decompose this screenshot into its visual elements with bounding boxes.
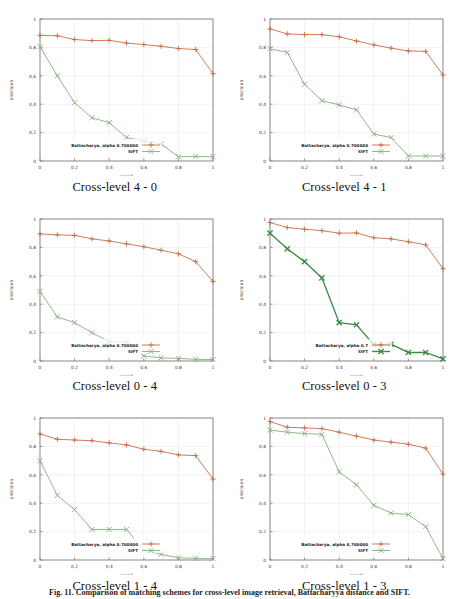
svg-text:0,2: 0,2 [259,130,266,135]
svg-text:0,6: 0,6 [259,74,266,79]
legend-label: SIFT [357,149,367,154]
svg-text:0,2: 0,2 [259,330,266,335]
legend-label: SIFT [128,349,138,354]
svg-text:0: 0 [33,159,36,164]
x-axis-label: recall [120,374,133,376]
series-line-1 [37,33,215,77]
svg-text:1: 1 [212,365,215,370]
svg-text:0,8: 0,8 [29,245,36,250]
svg-text:0,6: 0,6 [370,564,377,569]
svg-text:0: 0 [39,564,42,569]
svg-text:1: 1 [441,564,444,569]
svg-text:0: 0 [39,365,42,370]
svg-text:0,8: 0,8 [175,165,182,170]
svg-text:0: 0 [268,564,271,569]
svg-text:0,6: 0,6 [140,165,147,170]
svg-text:0,2: 0,2 [71,365,78,370]
svg-text:0,4: 0,4 [259,301,266,306]
y-axis-label: precision [9,479,14,500]
svg-text:0: 0 [263,358,266,363]
legend-label: Battacharya, alpha 0.700000 [301,143,368,148]
series-line-1 [267,419,445,477]
svg-text:0,4: 0,4 [29,501,36,506]
svg-text:0,2: 0,2 [71,165,78,170]
subplot-caption: Cross-level 0 - 3 [230,379,459,394]
subplot-cell: 00,20,40,60,8100,20,40,60,81recallprecis… [230,0,459,200]
subplot-row: 00,20,40,60,8100,20,40,60,81recallprecis… [0,399,459,599]
svg-text:0,2: 0,2 [301,365,308,370]
legend-label: SIFT [357,548,367,553]
svg-text:0: 0 [263,558,266,563]
plot-panel: 00,20,40,60,8100,20,40,60,81recallprecis… [230,200,459,376]
svg-text:0,2: 0,2 [29,330,36,335]
svg-text:0,8: 0,8 [259,45,266,50]
svg-text:0,2: 0,2 [29,529,36,534]
svg-text:0,4: 0,4 [259,102,266,107]
plot-panel: 00,20,40,60,8100,20,40,60,81recallprecis… [230,399,459,575]
svg-text:0,6: 0,6 [29,273,36,278]
subplot-cell: 00,20,40,60,8100,20,40,60,81recallprecis… [0,200,230,400]
plot-panel: 00,20,40,60,8100,20,40,60,81recallprecis… [230,0,459,176]
svg-text:1: 1 [33,416,36,421]
svg-text:0: 0 [268,165,271,170]
svg-text:0: 0 [263,159,266,164]
svg-text:1: 1 [263,17,266,22]
y-axis-label: precision [239,479,244,500]
svg-text:0,6: 0,6 [29,473,36,478]
svg-text:1: 1 [212,165,215,170]
y-axis-label: precision [239,80,244,101]
figure-caption: Fig. 11. Comparison of matching schemes … [0,588,459,599]
y-axis-label: precision [239,279,244,300]
svg-text:0,2: 0,2 [301,564,308,569]
svg-text:0,4: 0,4 [29,301,36,306]
subplot-row: 00,20,40,60,8100,20,40,60,81recallprecis… [0,200,459,400]
svg-text:0,8: 0,8 [259,444,266,449]
svg-text:1: 1 [212,564,215,569]
svg-text:1: 1 [263,416,266,421]
svg-text:0,8: 0,8 [259,245,266,250]
plot-panel: 00,20,40,60,8100,20,40,60,81recallprecis… [0,0,230,176]
legend-label: Battacharya, alpha 0.700000 [71,143,138,148]
legend: Battacharya, alpha 0.700000SIFT [44,538,162,553]
plot-panel: 00,20,40,60,8100,20,40,60,81recallprecis… [0,200,230,376]
legend-label: SIFT [128,149,138,154]
svg-text:0,6: 0,6 [259,273,266,278]
svg-text:0,4: 0,4 [106,564,113,569]
series-line-1 [267,220,445,271]
legend-label: SIFT [128,548,138,553]
svg-text:0: 0 [268,365,271,370]
x-axis-label: recall [350,374,363,376]
legend-label: SIFT [357,349,367,354]
svg-text:0,2: 0,2 [71,564,78,569]
subplot-cell: 00,20,40,60,8100,20,40,60,81recallprecis… [230,399,459,599]
svg-text:0,8: 0,8 [175,365,182,370]
svg-text:1: 1 [263,216,266,221]
legend-label: Battacharya, alpha 0.7 [315,342,368,347]
svg-text:0,8: 0,8 [404,564,411,569]
legend: Battacharya, alpha 0.700000SIFT [44,139,162,154]
subplot-caption: Cross-level 4 - 1 [230,180,459,195]
svg-text:0,4: 0,4 [335,165,342,170]
svg-text:0,8: 0,8 [404,165,411,170]
legend: Battacharya, alpha 0.700000SIFT [44,339,162,354]
subplot-caption: Cross-level 0 - 4 [0,379,230,394]
subplot-cell: 00,20,40,60,8100,20,40,60,81recallprecis… [0,399,230,599]
series-line-1 [267,26,445,77]
subplot-grid: 00,20,40,60,8100,20,40,60,81recallprecis… [0,0,459,599]
legend: Battacharya, alpha 0.7SIFT [274,339,392,354]
y-axis-label: precision [9,80,14,101]
subplot-row: 00,20,40,60,8100,20,40,60,81recallprecis… [0,0,459,200]
legend-label: Battacharya, alpha 0.700000 [301,542,368,547]
figure-cross-level-precision-recall: 00,20,40,60,8100,20,40,60,81recallprecis… [0,0,459,599]
svg-text:0,6: 0,6 [370,365,377,370]
svg-text:0,4: 0,4 [335,365,342,370]
legend-label: Battacharya, alpha 0.700000 [71,542,138,547]
legend: Battacharya, alpha 0.700000SIFT [274,139,392,154]
svg-text:0,6: 0,6 [259,473,266,478]
svg-text:1: 1 [33,216,36,221]
svg-text:0,4: 0,4 [29,102,36,107]
x-axis-label: recall [350,174,363,176]
x-axis-label: recall [120,573,133,575]
svg-text:0,4: 0,4 [259,501,266,506]
svg-text:0,2: 0,2 [259,529,266,534]
